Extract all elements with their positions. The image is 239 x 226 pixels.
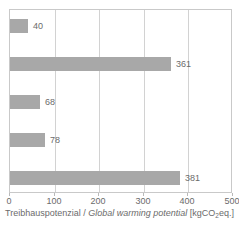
- tick-label-400: 400: [179, 197, 194, 206]
- bar-value-label: 361: [171, 60, 191, 69]
- bar: [10, 19, 28, 33]
- x-axis-label-en: Global warming potential: [88, 208, 187, 218]
- gridline-500: [233, 10, 234, 192]
- bar-row: 40: [10, 19, 231, 33]
- x-axis-unit-suffix: eq.]: [219, 208, 234, 218]
- tick-label-200: 200: [90, 197, 105, 206]
- bar-chart-figure: 403616878381 0100200300400500 Treibhausp…: [0, 0, 239, 226]
- plot-area: 403616878381: [10, 10, 231, 192]
- bar-value-label: 68: [40, 98, 55, 107]
- tick-label-300: 300: [135, 197, 150, 206]
- tick-label-0: 0: [6, 197, 11, 206]
- bar-value-label: 40: [28, 22, 43, 31]
- plot-frame: 403616878381: [9, 9, 232, 193]
- x-axis-unit-prefix: [kgCO: [187, 208, 215, 218]
- x-axis-ticks: 0100200300400500: [9, 193, 232, 207]
- bar: [10, 95, 40, 109]
- bar-row: 361: [10, 57, 231, 71]
- bar: [10, 133, 45, 147]
- bar: [10, 171, 180, 185]
- x-axis-unit-subscript: 2: [215, 212, 219, 219]
- x-axis-label-de: Treibhauspotenzial: [5, 208, 81, 218]
- bar: [10, 57, 171, 71]
- bar-row: 78: [10, 133, 231, 147]
- bar-row: 68: [10, 95, 231, 109]
- bar-row: 381: [10, 171, 231, 185]
- tick-label-500: 500: [224, 197, 239, 206]
- bar-value-label: 78: [45, 136, 60, 145]
- x-axis-label: Treibhauspotenzial / Global warming pote…: [0, 209, 239, 218]
- tick-label-100: 100: [46, 197, 61, 206]
- bar-value-label: 381: [180, 174, 200, 183]
